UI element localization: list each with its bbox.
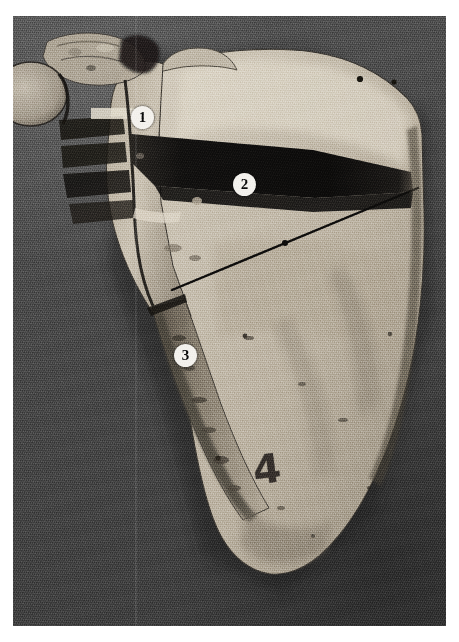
figure-root: 4 1 2 3 scapula (0, 0, 459, 642)
film-grain-overlay-fine (13, 16, 446, 626)
specimen-photograph: 4 1 2 3 (13, 16, 446, 626)
